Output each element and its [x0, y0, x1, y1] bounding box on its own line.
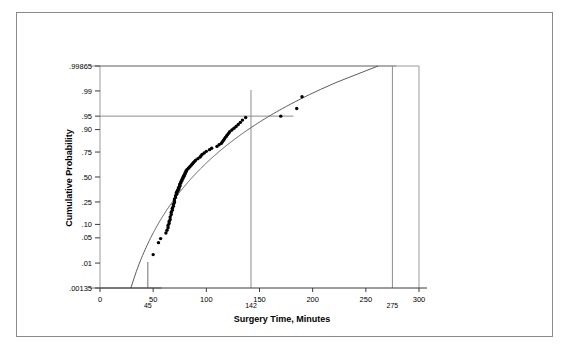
y-tick-label-.05: .05: [82, 233, 92, 242]
y-tick-label-.01: .01: [82, 259, 92, 268]
y-tick-label-.10: .10: [82, 220, 92, 229]
data-point: [295, 107, 298, 110]
x-tick-label-0: 0: [98, 295, 102, 304]
data-point: [300, 95, 303, 98]
x-tick-label-300: 300: [413, 295, 426, 304]
y-tick-label-.25: .25: [82, 198, 92, 207]
x-extra-tick-label-45: 45: [144, 302, 152, 309]
data-point: [157, 241, 160, 244]
y-tick-label-.75: .75: [82, 148, 92, 157]
data-point: [210, 146, 213, 149]
data-point: [244, 116, 247, 119]
y-tick-label-.90: .90: [82, 125, 92, 134]
figure-root: 05010015020025030045142275 .00135.01.05.…: [0, 0, 569, 352]
x-extra-tick-label-142: 142: [245, 302, 257, 309]
x-tick-label-200: 200: [306, 295, 319, 304]
data-point: [241, 118, 244, 121]
y-tick-label-.50: .50: [82, 173, 92, 182]
plot-frame: [100, 66, 419, 288]
probability-plot: 05010015020025030045142275 .00135.01.05.…: [0, 0, 569, 352]
data-points: [151, 95, 303, 256]
y-axis-title: Cumulative Probability: [64, 129, 74, 227]
data-point: [151, 253, 154, 256]
x-axis-title: Surgery Time, Minutes: [234, 314, 330, 324]
lognormal-fit-curve: [131, 66, 378, 288]
fit-line: [131, 66, 378, 288]
data-point: [205, 150, 208, 153]
y-tick-label-.95: .95: [82, 112, 92, 121]
plot-svg: 05010015020025030045142275 .00135.01.05.…: [0, 0, 569, 352]
y-tick-label-.99865: .99865: [69, 62, 92, 71]
y-tick-label-.99: .99: [82, 87, 92, 96]
reference-lines: [90, 66, 396, 288]
data-point: [279, 114, 282, 117]
y-tick-label-.00135: .00135: [69, 284, 92, 293]
data-point: [159, 237, 162, 240]
x-axis: 05010015020025030045142275: [98, 288, 427, 309]
x-tick-label-100: 100: [200, 295, 213, 304]
x-tick-label-250: 250: [360, 295, 373, 304]
x-extra-tick-label-275: 275: [387, 302, 399, 309]
